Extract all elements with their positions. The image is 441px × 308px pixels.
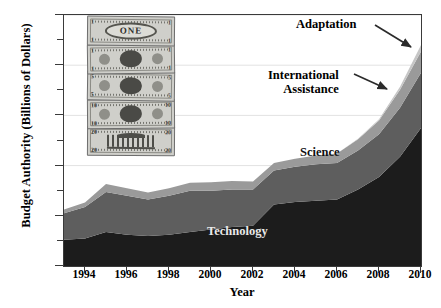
- banknote-denomination: 10: [165, 119, 171, 125]
- arrow-adaptation: [375, 25, 411, 47]
- banknote-denomination: 1: [91, 19, 94, 25]
- banknote-denomination: 1: [91, 65, 94, 71]
- banknote-denomination: 1: [168, 19, 171, 25]
- banknote-denomination: 10: [91, 120, 97, 126]
- banknote-denomination: 1: [168, 64, 171, 70]
- banknote-seal: [99, 108, 110, 119]
- banknote-seal: [99, 80, 110, 91]
- banknote-portrait: [120, 50, 143, 68]
- banknote-denomination: 10: [165, 101, 171, 107]
- banknote-seal: [152, 108, 163, 119]
- banknote-stack-decoration: 1111ONE111155551010101020202020: [87, 16, 175, 156]
- banknote-center-text: ONE: [105, 22, 157, 39]
- banknote-seal: [99, 53, 110, 64]
- banknote-1: 1111ONE: [87, 16, 175, 47]
- banknote-20: 20202020: [87, 126, 175, 157]
- banknote-denomination: 1: [91, 37, 94, 43]
- banknote-denomination: 20: [165, 129, 171, 135]
- banknote-denomination: 20: [165, 147, 171, 153]
- banknote-denomination: 20: [91, 129, 97, 135]
- banknote-denomination: 5: [91, 91, 94, 97]
- banknote-denomination: 5: [168, 75, 171, 81]
- annotation-arrows: [0, 0, 441, 308]
- banknote-denomination: 1: [168, 46, 171, 52]
- banknote-building: [107, 135, 155, 149]
- banknote-denomination: 20: [91, 147, 97, 153]
- banknote-seal: [152, 53, 163, 64]
- arrow-international-assistance: [354, 74, 387, 89]
- banknote-denomination: 1: [168, 37, 171, 43]
- banknote-5: 5555: [87, 70, 175, 101]
- banknote-portrait: [120, 105, 143, 123]
- stacked-area-chart-figure: Budget Authority (Billions of Dollars) $…: [0, 0, 441, 308]
- banknote-denomination: 5: [168, 93, 171, 99]
- banknote-denomination: 1: [91, 47, 94, 53]
- banknote-10: 10101010: [87, 98, 175, 129]
- banknote-denomination: 10: [91, 102, 97, 108]
- banknote-1: 1111: [87, 43, 175, 74]
